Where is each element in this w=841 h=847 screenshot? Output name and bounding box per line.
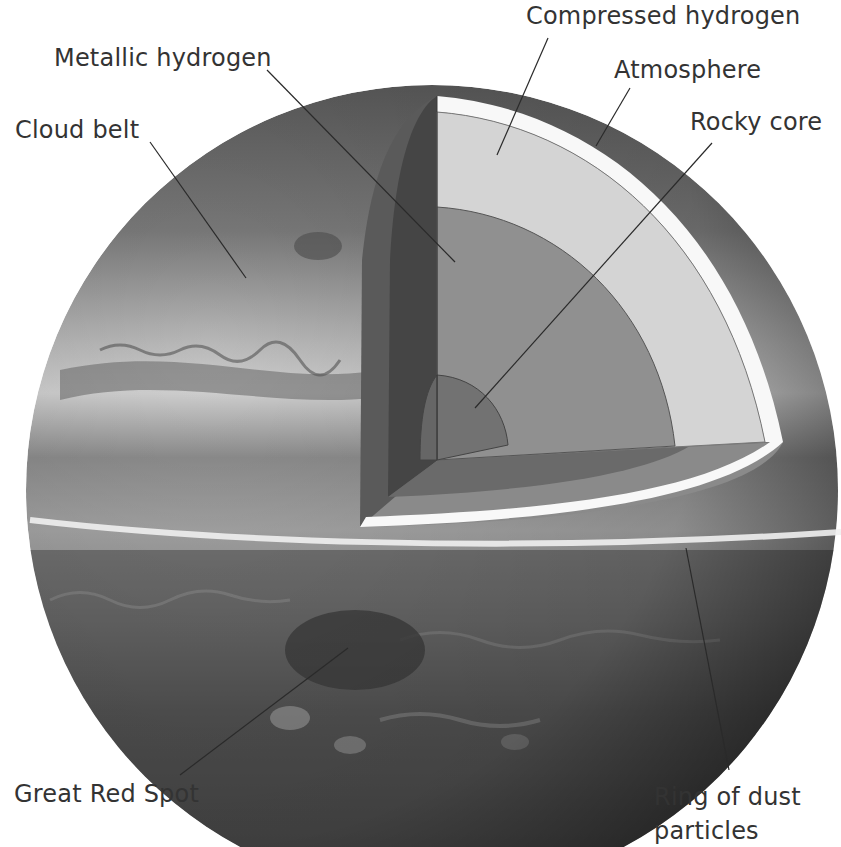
label-cloud-belt: Cloud belt bbox=[15, 116, 139, 144]
label-compressed-hydrogen: Compressed hydrogen bbox=[526, 2, 800, 30]
cutaway-section bbox=[360, 96, 783, 527]
label-ring-of-dust: Ring of dust particles bbox=[654, 780, 804, 847]
label-atmosphere: Atmosphere bbox=[614, 56, 761, 84]
label-great-red-spot: Great Red Spot bbox=[14, 780, 199, 808]
label-metallic-hydrogen: Metallic hydrogen bbox=[54, 44, 272, 72]
label-rocky-core: Rocky core bbox=[690, 108, 822, 136]
